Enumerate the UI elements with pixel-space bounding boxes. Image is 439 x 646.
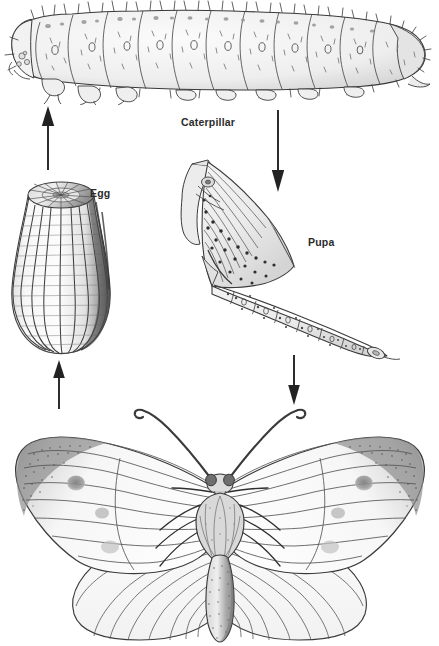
label-egg: Egg [90,188,110,199]
pupa-figure [178,152,402,364]
butterfly-life-cycle-diagram: Caterpillar Egg Pupa [0,0,439,646]
caterpillar-figure [0,0,439,105]
arrow-pupa-to-butterfly [284,355,304,407]
arrow-butterfly-to-egg [49,359,69,409]
arrow-caterpillar-to-pupa [268,110,288,194]
arrow-egg-to-caterpillar [38,104,58,170]
label-pupa: Pupa [308,237,334,248]
butterfly-figure [0,398,439,646]
label-caterpillar: Caterpillar [181,117,235,128]
